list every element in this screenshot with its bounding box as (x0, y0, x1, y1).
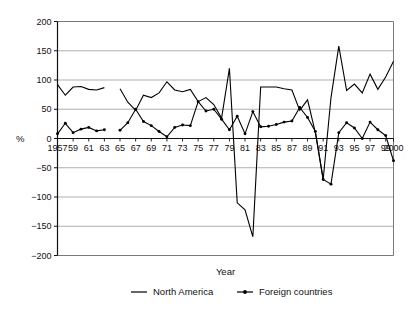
series-marker (56, 132, 59, 135)
series-marker (314, 130, 317, 133)
x-tick-label: 1957 (47, 143, 67, 153)
x-tick-label: 61 (84, 143, 94, 153)
y-tick-label: −200 (31, 251, 51, 261)
x-tick-label: 77 (209, 143, 219, 153)
series-marker (205, 110, 208, 113)
x-tick-label: 81 (240, 143, 250, 153)
series-marker (275, 123, 278, 126)
series-line (120, 46, 393, 237)
x-tick-label: 67 (131, 143, 141, 153)
plot-frame (58, 22, 394, 256)
series-marker (126, 121, 129, 124)
x-tick-label: 85 (271, 143, 281, 153)
legend-swatch-dot (243, 290, 247, 294)
series-marker (353, 127, 356, 130)
series-marker (64, 122, 67, 125)
y-tick-label: 50 (41, 104, 51, 114)
series-marker (87, 126, 90, 129)
series-marker (322, 178, 325, 181)
series-marker (251, 110, 254, 113)
y-tick-label: −50 (36, 163, 51, 173)
x-tick-label: 71 (162, 143, 172, 153)
series-marker (158, 130, 161, 133)
series-marker (392, 159, 395, 162)
x-tick-label: 63 (99, 143, 109, 153)
series-line (58, 85, 105, 96)
y-axis-title: % (16, 133, 25, 144)
series-marker (173, 126, 176, 129)
series-marker (197, 100, 200, 103)
x-tick-label: 75 (193, 143, 203, 153)
series-marker (345, 121, 348, 124)
series-marker (103, 128, 106, 131)
chart-figure: 200150100500−50−100−150−200%195759616365… (0, 0, 414, 311)
line-chart: 200150100500−50−100−150−200%195759616365… (0, 0, 414, 311)
series-marker (95, 129, 98, 132)
x-tick-label: 73 (178, 143, 188, 153)
x-tick-label: 87 (287, 143, 297, 153)
series-marker (384, 134, 387, 137)
y-tick-label: −150 (31, 221, 51, 231)
series-marker (181, 124, 184, 127)
series-marker (290, 120, 293, 123)
x-tick-label: 65 (115, 143, 125, 153)
series-marker (236, 115, 239, 118)
series-marker (165, 135, 168, 138)
y-axis-ticks: 200150100500−50−100−150−200 (31, 17, 57, 261)
legend-label-north-america: North America (153, 286, 214, 297)
x-tick-label: 89 (303, 143, 313, 153)
x-tick-label: 2000 (383, 143, 403, 153)
series-marker (267, 125, 270, 128)
y-tick-label: 200 (36, 17, 51, 27)
series-marker (259, 125, 262, 128)
x-tick-label: 79 (224, 143, 234, 153)
y-tick-label: 100 (36, 75, 51, 85)
y-tick-label: 150 (36, 46, 51, 56)
series-marker (244, 132, 247, 135)
series-marker (142, 120, 145, 123)
series-marker (337, 131, 340, 134)
series-marker (228, 128, 231, 131)
series-marker (376, 128, 379, 131)
y-tick-label: −100 (31, 192, 51, 202)
x-axis-title: Year (216, 266, 235, 277)
x-tick-label: 93 (334, 143, 344, 153)
x-tick-label: 69 (146, 143, 156, 153)
series-marker (220, 118, 223, 121)
series-marker (189, 124, 192, 127)
series-marker (79, 128, 82, 131)
series-marker (369, 121, 372, 124)
series-marker (361, 137, 364, 140)
legend-label-foreign-countries: Foreign countries (259, 286, 333, 297)
x-tick-label: 59 (68, 143, 78, 153)
series-marker (150, 124, 153, 127)
series-marker (306, 116, 309, 119)
series-marker (330, 183, 333, 186)
series-marker (298, 106, 301, 109)
series-marker (212, 108, 215, 111)
x-tick-label: 97 (365, 143, 375, 153)
series-marker (119, 129, 122, 132)
legend: North AmericaForeign countries (131, 286, 333, 297)
series-marker (72, 131, 75, 134)
x-tick-label: 95 (349, 143, 359, 153)
series-marker (134, 108, 137, 111)
x-axis-ticks: 1957596163656769717375777981838587899193… (47, 139, 403, 154)
series-1 (58, 46, 394, 237)
series-marker (283, 121, 286, 124)
